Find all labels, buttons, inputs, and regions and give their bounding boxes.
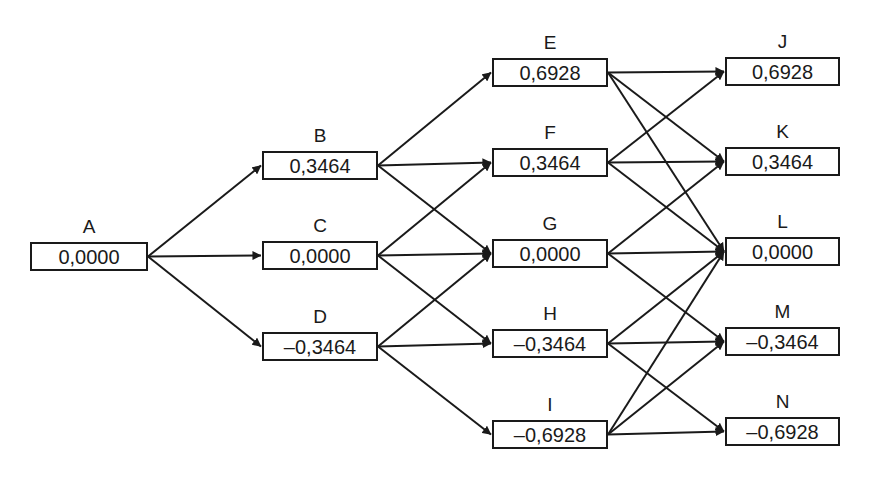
node-label-k: K [725,122,840,142]
node-value-e: 0,6928 [492,58,608,87]
node-value-i: –0,6928 [492,420,608,449]
node-value-a: 0,0000 [30,242,148,271]
edge-a-c [148,256,261,257]
node-label-b: B [262,126,378,146]
node-value-f: 0,3464 [492,148,608,177]
node-value-m: –0,3464 [725,327,840,356]
tree-node-e: E 0,6928 [492,58,608,87]
node-value-h: –0,3464 [492,329,608,358]
node-label-a: A [30,217,148,237]
tree-node-n: N –0,6928 [725,417,840,446]
node-label-g: G [492,214,608,234]
node-label-f: F [492,123,608,143]
node-label-d: D [262,307,378,327]
edge-a-b [148,166,261,257]
tree-node-j: J 0,6928 [725,57,840,86]
edge-b-e [378,73,491,166]
node-label-j: J [725,32,840,52]
tree-node-k: K 0,3464 [725,147,840,176]
edge-c-g [378,254,491,256]
edge-g-l [608,252,724,254]
node-value-g: 0,0000 [492,239,608,268]
tree-node-f: F 0,3464 [492,148,608,177]
node-value-j: 0,6928 [725,57,840,86]
node-label-c: C [262,216,378,236]
tree-node-b: B 0,3464 [262,151,378,180]
tree-node-m: M –0,3464 [725,327,840,356]
tree-node-d: D –0,3464 [262,332,378,361]
edge-a-d [148,257,261,347]
edge-d-i [378,347,491,435]
tree-node-h: H –0,3464 [492,329,608,358]
node-label-n: N [725,392,840,412]
tree-node-c: C 0,0000 [262,241,378,270]
tree-node-g: G 0,0000 [492,239,608,268]
edge-e-j [608,72,724,73]
node-value-b: 0,3464 [262,151,378,180]
node-label-i: I [492,395,608,415]
edge-d-h [378,344,491,347]
node-value-c: 0,0000 [262,241,378,270]
edge-f-k [608,162,724,163]
node-value-l: 0,0000 [725,237,840,266]
tree-node-l: L 0,0000 [725,237,840,266]
tree-node-i: I –0,6928 [492,420,608,449]
edge-h-l [608,252,724,344]
edge-b-f [378,163,491,166]
edge-group [148,72,724,435]
node-value-k: 0,3464 [725,147,840,176]
node-label-h: H [492,304,608,324]
node-value-n: –0,6928 [725,417,840,446]
node-value-d: –0,3464 [262,332,378,361]
node-label-e: E [492,33,608,53]
node-label-m: M [725,302,840,322]
tree-node-a: A 0,0000 [30,242,148,271]
edge-i-n [608,432,724,435]
node-label-l: L [725,212,840,232]
